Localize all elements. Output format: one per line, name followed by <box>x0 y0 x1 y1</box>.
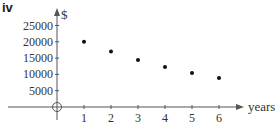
scatter-chart: years$ 250002000015000100005000 123456 <box>0 0 275 122</box>
y-tick-label: 5000 <box>29 84 53 98</box>
x-tick-label: 1 <box>81 111 87 122</box>
x-axis-arrow-icon <box>236 104 244 110</box>
data-point <box>82 40 86 44</box>
y-tick-label: 25000 <box>23 19 53 33</box>
y-tick-label: 15000 <box>23 51 53 65</box>
data-point <box>217 76 221 80</box>
x-tick-label: 3 <box>135 111 141 122</box>
x-tick-label: 5 <box>189 111 195 122</box>
x-axis-label: years <box>248 99 275 114</box>
y-tick-label: 20000 <box>23 35 53 49</box>
data-point <box>109 50 113 54</box>
y-tick-label: 10000 <box>23 67 53 81</box>
x-tick-label: 4 <box>162 111 168 122</box>
y-axis-arrow-icon <box>54 8 60 16</box>
x-tick-label: 2 <box>108 111 114 122</box>
x-axis-ticks: 123456 <box>81 105 222 122</box>
data-point <box>136 58 140 62</box>
data-point <box>190 71 194 75</box>
data-points <box>82 40 221 80</box>
data-point <box>163 65 167 69</box>
x-tick-label: 6 <box>216 111 222 122</box>
y-axis-label: $ <box>61 7 68 22</box>
y-axis-ticks: 250002000015000100005000 <box>23 19 59 98</box>
